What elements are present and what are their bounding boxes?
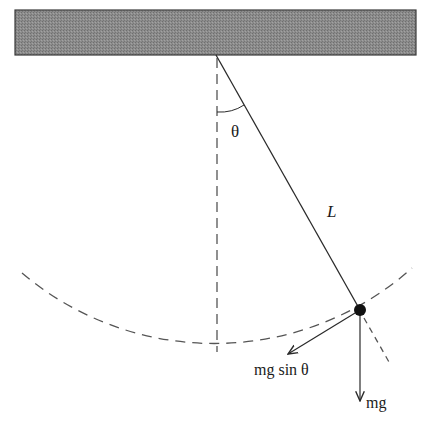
pendulum-string [216,55,360,310]
tangential-force-arrow [288,310,360,354]
pendulum-bob [354,304,366,316]
angle-arc [217,105,244,112]
length-label: L [326,202,336,221]
angle-label: θ [231,122,239,141]
weight-label: mg [366,394,386,412]
pendulum-diagram: θ L mg sin θ mg [0,0,430,428]
string-extension [364,318,389,362]
ceiling-support [15,10,416,55]
tangential-force-label: mg sin θ [254,361,309,379]
